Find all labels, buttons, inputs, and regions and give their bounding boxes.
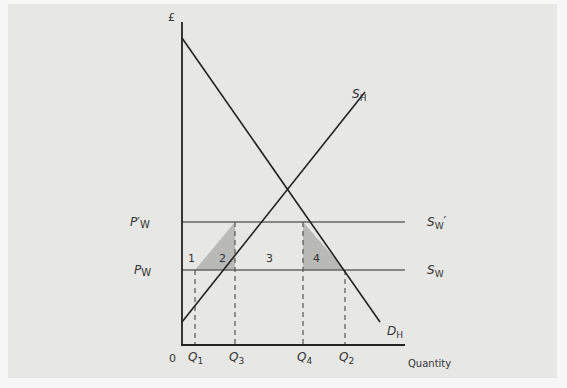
price-world-tariff-label: P′W	[130, 215, 150, 230]
demand-home-label: DH	[387, 324, 403, 340]
area-2-label: 2	[219, 252, 226, 265]
q1-label: Q1	[188, 350, 203, 366]
supply-home-label: SH	[352, 87, 366, 103]
area-1-label: 1	[188, 252, 195, 265]
x-axis-label: Quantity	[408, 358, 451, 369]
y-axis-label: £	[168, 11, 175, 24]
area-4-label: 4	[313, 252, 320, 265]
world-supply-tariff-label: SW′	[427, 214, 447, 231]
tariff-diagram: £ 0 Quantity SH DH SW′ SW P′W PW Q1 Q3 Q…	[0, 0, 567, 388]
demand-curve	[182, 38, 380, 322]
q3-label: Q3	[229, 350, 244, 366]
area-3-label: 3	[266, 252, 273, 265]
q2-label: Q2	[339, 350, 354, 366]
q4-label: Q4	[297, 350, 312, 366]
world-supply-label: SW	[427, 263, 444, 279]
price-world-label: PW	[134, 263, 151, 278]
origin-label: 0	[169, 352, 176, 365]
supply-curve	[182, 92, 365, 322]
